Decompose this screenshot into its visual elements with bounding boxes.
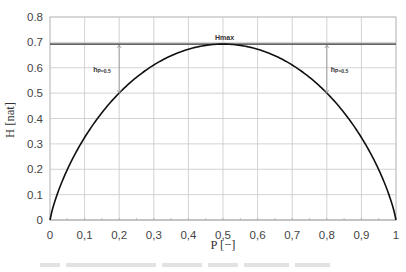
y-tick-label: 0.1 [27, 189, 43, 201]
y-tick-label: 0.2 [27, 163, 43, 175]
x-tick-label: 0,2 [111, 229, 127, 241]
grid-lines [50, 17, 396, 220]
x-axis-label: P [−] [211, 238, 236, 252]
y-tick-label: 0.6 [27, 62, 43, 74]
entropy-chart: 00.10.20.30.40.50.60.70.8 00,10,20,30,40… [0, 0, 406, 272]
hmax-label: Hmax [215, 34, 234, 41]
h-annotation-label: hP=0.5 [331, 66, 349, 75]
x-tick-label: 0,7 [284, 229, 300, 241]
y-axis-label: H [nat] [3, 102, 17, 138]
h-annotation-label: hP=0.5 [93, 66, 111, 75]
x-tick-label: 0,1 [77, 229, 93, 241]
y-tick-label: 0 [37, 214, 43, 226]
y-tick-label: 0.3 [27, 138, 43, 150]
y-tick-label: 0.4 [27, 113, 44, 125]
x-tick-label: 0,8 [319, 229, 335, 241]
y-tick-label: 0.7 [27, 36, 43, 48]
y-tick-label: 0.8 [27, 11, 43, 23]
annotations: hP=0.5hP=0.5 [93, 45, 348, 93]
x-tick-label: 0,3 [146, 229, 162, 241]
y-tick-label: 0.5 [27, 87, 43, 99]
x-tick-label: 0 [47, 229, 53, 241]
y-axis-ticks: 00.10.20.30.40.50.60.70.8 [27, 11, 44, 226]
figure-caption-cutoff [40, 263, 370, 267]
x-tick-label: 1 [393, 229, 399, 241]
x-tick-label: 0,9 [353, 229, 369, 241]
x-tick-label: 0,6 [250, 229, 266, 241]
x-tick-label: 0,4 [180, 229, 197, 241]
